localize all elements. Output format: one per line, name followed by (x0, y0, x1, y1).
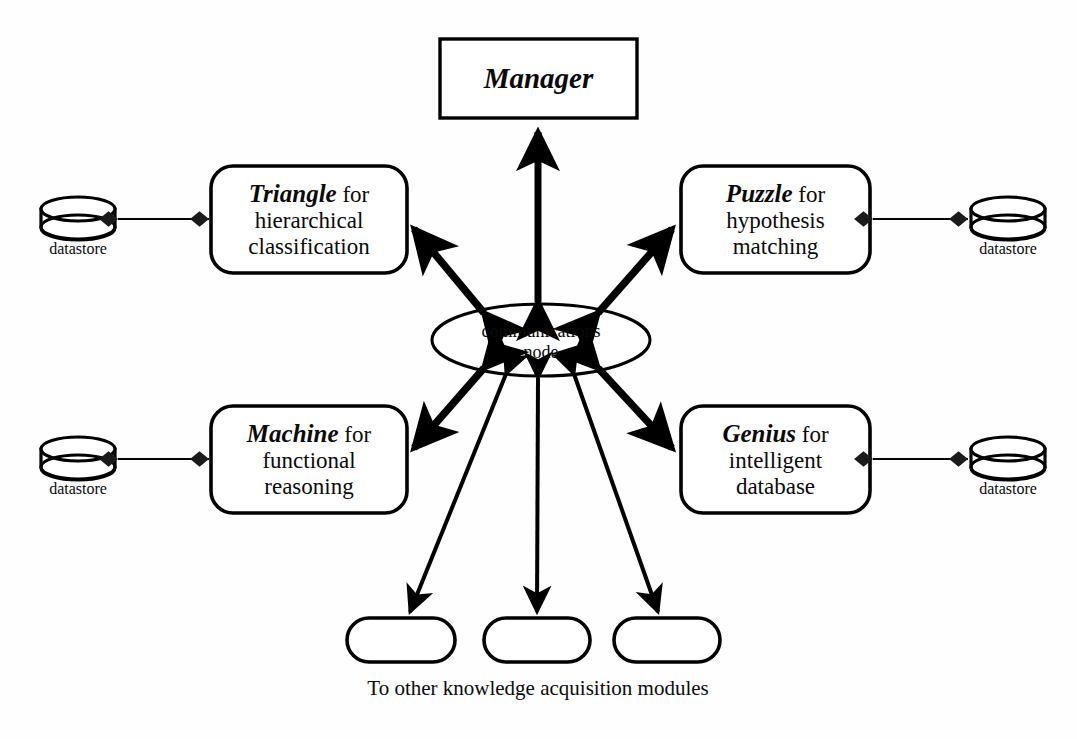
datastore-cylinder-machine[interactable] (41, 437, 115, 480)
datastore-label-genius: datastore (958, 480, 1058, 498)
other-modules-caption: To other knowledge acquisition modules (288, 676, 788, 701)
module-box-triangle[interactable] (211, 166, 407, 273)
manager-box[interactable] (440, 39, 637, 118)
arrow-hub-other-module-1 (410, 374, 506, 612)
arrow-hub-puzzle (598, 229, 672, 313)
datastore-label-triangle: datastore (28, 240, 128, 258)
datastore-label-machine: datastore (28, 480, 128, 498)
other-module-box-2[interactable] (484, 618, 590, 662)
arrow-hub-machine (414, 368, 484, 448)
module-box-machine[interactable] (211, 406, 407, 513)
other-module-box-1[interactable] (347, 618, 455, 662)
other-module-box-3[interactable] (614, 618, 720, 662)
arrow-hub-triangle (414, 229, 484, 313)
module-box-puzzle[interactable] (681, 166, 870, 273)
datastore-label-puzzle: datastore (958, 240, 1058, 258)
communications-node-ellipse[interactable] (432, 304, 650, 376)
arrow-hub-other-module-2 (537, 378, 538, 612)
datastore-cylinder-genius[interactable] (971, 437, 1045, 480)
datastore-cylinder-puzzle[interactable] (971, 197, 1045, 240)
arrow-hub-other-module-3 (574, 374, 658, 612)
arrow-hub-genius (598, 368, 672, 448)
diagram-vector-layer (0, 0, 1077, 739)
diagram-canvas: Manager Triangle for hierarchical classi… (0, 0, 1077, 739)
datastore-cylinder-triangle[interactable] (41, 197, 115, 240)
module-box-genius[interactable] (681, 406, 870, 513)
